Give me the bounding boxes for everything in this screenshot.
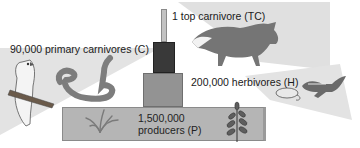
producers-name-label: producers (P): [138, 124, 202, 136]
mouse-icon: [276, 88, 300, 100]
top-carnivore-label: 1 top carnivore (TC): [172, 10, 265, 22]
snake-icon: [59, 56, 113, 99]
owl-icon: [8, 60, 54, 126]
chipmunk-icon: [302, 76, 346, 98]
leafy-plant-icon: [226, 102, 248, 142]
herbivores-label: 200,000 herbivores (H): [191, 76, 298, 88]
fox-icon: [192, 22, 278, 66]
producers-count-label: 1,500,000: [138, 112, 185, 124]
grass-icon: [86, 110, 118, 132]
primary-carnivores-label: 90,000 primary carnivores (C): [10, 43, 149, 55]
